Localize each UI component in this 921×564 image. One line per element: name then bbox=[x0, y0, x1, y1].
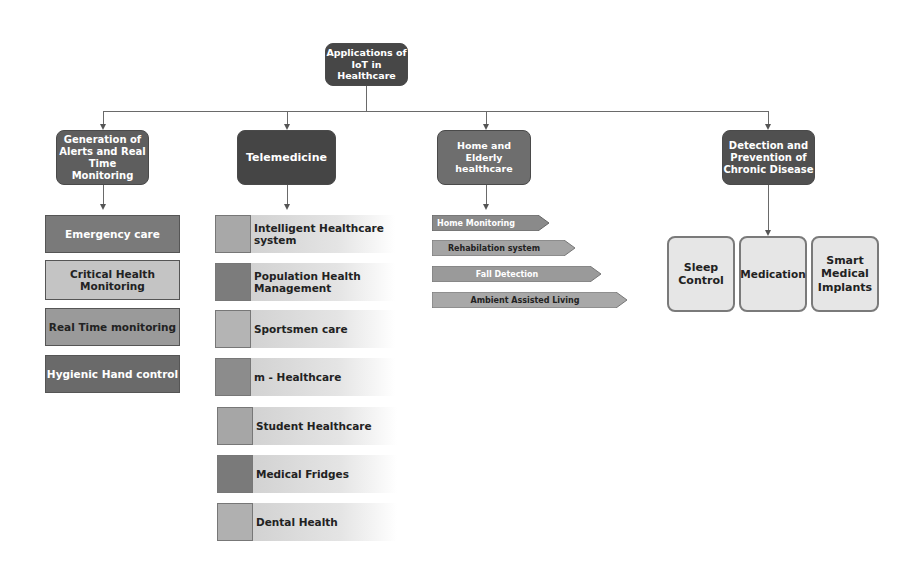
tele-square bbox=[217, 407, 253, 445]
item-label-line: Population Health bbox=[254, 270, 361, 282]
item-label-line: Control bbox=[678, 274, 723, 287]
category-telemedicine: Telemedicine bbox=[237, 130, 336, 185]
item-label-line: Smart bbox=[818, 254, 872, 267]
horizontal-connector bbox=[103, 111, 769, 112]
tele-item-medical-fridges: Medical Fridges bbox=[217, 455, 397, 493]
item-label-line: Sleep bbox=[678, 261, 723, 274]
item-rehabilation-system: Rehabilation system bbox=[432, 240, 576, 256]
item-label: Student Healthcare bbox=[256, 420, 372, 432]
tele-label: Medical Fridges bbox=[253, 455, 397, 493]
item-label: Ambient Assisted Living bbox=[471, 296, 580, 305]
tele-item-intelligent-healthcare: Intelligent Healthcare system bbox=[215, 215, 395, 253]
item-label: Real Time monitoring bbox=[49, 321, 176, 333]
tele-square bbox=[217, 503, 253, 541]
tele-label: Dental Health bbox=[253, 503, 397, 541]
item-smart-medical-implants: Smart Medical Implants bbox=[811, 236, 879, 312]
root-node: Applications of IoT in Healthcare bbox=[325, 43, 408, 86]
tele-label: m - Healthcare bbox=[251, 358, 395, 396]
item-label: m - Healthcare bbox=[254, 371, 341, 383]
item-label: Hygienic Hand control bbox=[47, 368, 178, 380]
root-connector bbox=[366, 86, 367, 111]
item-label: Medication bbox=[740, 268, 805, 281]
category-home-elderly: Home and Elderly healthcare bbox=[437, 130, 531, 185]
arrow-down-icon bbox=[284, 204, 290, 210]
tele-label: Sportsmen care bbox=[251, 310, 395, 348]
item-label: Medical Fridges bbox=[256, 468, 349, 480]
item-label: Dental Health bbox=[256, 516, 338, 528]
category-label-line: Generation of bbox=[57, 134, 148, 146]
item-label: Home Monitoring bbox=[437, 219, 515, 228]
item-sleep-control: Sleep Control bbox=[667, 236, 735, 312]
tele-square bbox=[217, 455, 253, 493]
tele-item-m-healthcare: m - Healthcare bbox=[215, 358, 395, 396]
item-label: Sportsmen care bbox=[254, 323, 348, 335]
item-label: Fall Detection bbox=[476, 270, 538, 279]
item-critical-health-monitoring: Critical Health Monitoring bbox=[45, 260, 180, 300]
tele-square bbox=[215, 215, 251, 253]
item-ambient-assisted-living: Ambient Assisted Living bbox=[432, 292, 628, 308]
arrow-down-icon bbox=[483, 204, 489, 210]
category-label-line: Alerts and Real bbox=[57, 146, 148, 158]
tele-label: Population Health Management bbox=[251, 263, 395, 301]
category-4-down-connector bbox=[768, 185, 769, 233]
tele-square bbox=[215, 358, 251, 396]
category-label-line: Detection and bbox=[723, 140, 813, 152]
item-label-line: Intelligent Healthcare bbox=[254, 222, 384, 234]
category-label-line: Time Monitoring bbox=[57, 158, 148, 182]
item-label-line: Critical Health bbox=[70, 268, 155, 280]
root-label-line-2: IoT in Healthcare bbox=[326, 59, 407, 82]
item-home-monitoring: Home Monitoring bbox=[432, 215, 550, 231]
tele-label: Student Healthcare bbox=[253, 407, 397, 445]
item-label-line: Management bbox=[254, 282, 361, 294]
item-emergency-care: Emergency care bbox=[45, 215, 180, 253]
category-alerts-monitoring: Generation of Alerts and Real Time Monit… bbox=[56, 130, 149, 185]
category-label: Telemedicine bbox=[246, 151, 327, 164]
item-label: Rehabilation system bbox=[448, 244, 540, 253]
item-label-line: Monitoring bbox=[70, 280, 155, 292]
tele-square bbox=[215, 263, 251, 301]
tele-item-population-health: Population Health Management bbox=[215, 263, 395, 301]
tele-square bbox=[215, 310, 251, 348]
category-chronic-disease: Detection and Prevention of Chronic Dise… bbox=[722, 130, 815, 185]
item-label: Emergency care bbox=[65, 228, 160, 240]
root-label-line-1: Applications of bbox=[326, 47, 407, 58]
tele-item-sportsmen-care: Sportsmen care bbox=[215, 310, 395, 348]
category-label-line: Prevention of bbox=[723, 152, 813, 164]
item-fall-detection: Fall Detection bbox=[432, 266, 602, 282]
category-label-line: Elderly healthcare bbox=[438, 152, 530, 175]
item-label-line: Implants bbox=[818, 281, 872, 294]
item-real-time-monitoring: Real Time monitoring bbox=[45, 308, 180, 346]
arrow-down-icon bbox=[100, 204, 106, 210]
item-hygienic-hand-control: Hygienic Hand control bbox=[45, 355, 180, 393]
category-label-line: Chronic Disease bbox=[723, 164, 813, 176]
item-medication: Medication bbox=[739, 236, 807, 312]
tele-label: Intelligent Healthcare system bbox=[251, 215, 395, 253]
tele-item-dental-health: Dental Health bbox=[217, 503, 397, 541]
category-label-line: Home and bbox=[438, 140, 530, 151]
tele-item-student-healthcare: Student Healthcare bbox=[217, 407, 397, 445]
item-label-line: system bbox=[254, 234, 384, 246]
item-label-line: Medical bbox=[818, 267, 872, 280]
